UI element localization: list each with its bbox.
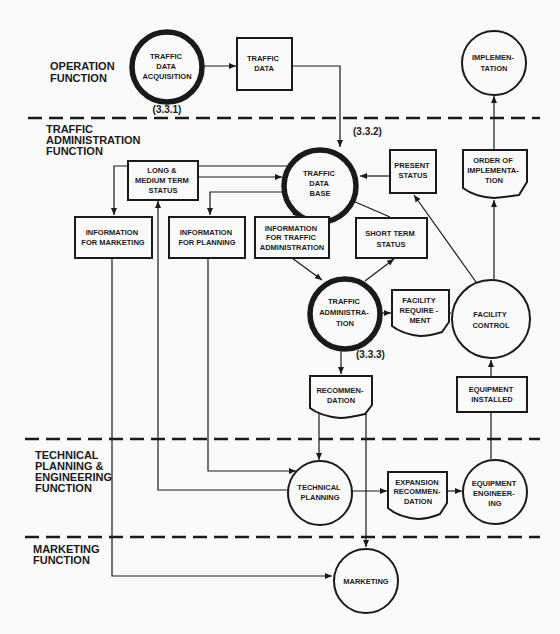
process-marketing: MARKETING — [334, 549, 398, 613]
svg-text:TECHNICAL PLANNING: TECHNICAL PLANNING — [297, 483, 342, 502]
data-information-for-traffic-administration: INFORMATION FOR TRAFFIC ADMINISTRATION — [255, 217, 329, 258]
data-present-status: PRESENT STATUS — [390, 150, 436, 193]
data-information-for-planning: INFORMATION FOR PLANNING — [169, 217, 245, 258]
data-short-term-status: SHORT TERM STATUS — [356, 218, 427, 258]
section-label-technical: TECHNICAL PLANNING & ENGINEERING FUNCTIO… — [35, 449, 115, 494]
ref-3-3-3: (3.3.3) — [356, 349, 385, 360]
svg-text:INFORMATION FOR TRAFFIC: INFORMATION FOR TRAFFIC ADMINISTRATION — [260, 224, 324, 252]
section-label-traffic-administration: TRAFFIC ADMINISTRATION FUNCTION — [46, 123, 144, 157]
data-equipment-installed: EQUIPMENT INSTALLED — [457, 377, 527, 412]
svg-text:MARKETING: MARKETING — [343, 577, 389, 586]
data-traffic-data: TRAFFIC DATA — [237, 38, 292, 90]
ref-3-3-1: (3.3.1) — [153, 104, 182, 115]
store-traffic-data-base: TRAFFIC DATA BASE — [284, 150, 356, 222]
doc-order-of-implementation: ORDER OF IMPLEMENTA- TION — [463, 150, 527, 198]
doc-facility-requirement: FACILITY REQUIRE - MENT — [392, 290, 449, 336]
data-flow-diagram: OPERATION FUNCTION TRAFFIC ADMINISTRATIO… — [0, 0, 560, 634]
process-traffic-data-acquisition: TRAFFIC DATA ACQUISITION — [132, 32, 202, 102]
doc-expansion-recommendation: EXPANSION RECOMMEN- DATION — [388, 472, 447, 519]
process-technical-planning: TECHNICAL PLANNING — [288, 461, 352, 525]
process-implementation: IMPLEMEN- TATION — [462, 31, 526, 95]
data-information-for-marketing: INFORMATION FOR MARKETING — [75, 217, 152, 258]
svg-text:EQUIPMENT INSTALLED: EQUIPMENT INSTALLED — [469, 385, 516, 404]
doc-recommendation: RECOMMEN- DATION — [310, 376, 372, 418]
process-facility-control: FACILITY CONTROL — [452, 280, 530, 358]
process-equipment-engineering: EQUIPMENT ENGINEER- ING — [463, 460, 527, 524]
svg-text:PRESENT STATUS: PRESENT STATUS — [394, 161, 432, 180]
section-label-marketing: MARKETING FUNCTION — [33, 543, 103, 566]
svg-text:INFORMATION FOR MARKETIN: INFORMATION FOR MARKETING — [81, 228, 144, 247]
svg-text:INFORMATION FOR PLANNING: INFORMATION FOR PLANNING — [178, 228, 235, 247]
data-long-medium-term-status: LONG & MEDIUM TERM STATUS — [128, 161, 198, 200]
section-label-operation: OPERATION FUNCTION — [50, 60, 118, 84]
process-traffic-administration: TRAFFIC ADMINISTRA- TION — [310, 279, 380, 349]
ref-3-3-2: (3.3.2) — [353, 126, 382, 137]
